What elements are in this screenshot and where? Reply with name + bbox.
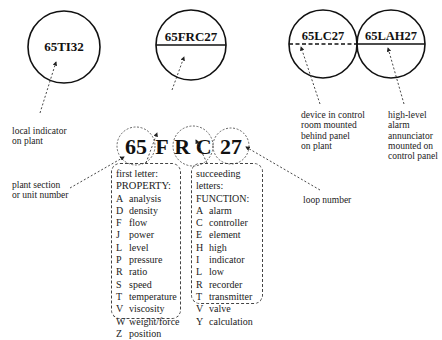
caption-line: local indicator (12, 126, 67, 136)
caption-lah: high-level alarm annunciator mounted on … (388, 110, 438, 161)
legend-code: D (116, 205, 129, 217)
legend-row: Ccontroller (196, 217, 262, 229)
legend-row: Iindicator (196, 254, 262, 266)
legend-row: Ddensity (116, 205, 180, 217)
legend-row: Eelement (196, 229, 262, 241)
caption-line: mounted on (388, 141, 438, 151)
legend-code: H (196, 242, 209, 254)
legend-name: indicator (209, 254, 245, 266)
legend-code: F (116, 217, 129, 229)
legend-code: S (116, 279, 129, 291)
legend-name: analysis (129, 193, 161, 205)
caption-line: or unit number (12, 190, 68, 200)
legend-code: V (196, 303, 209, 315)
legend-row: Llow (196, 266, 262, 278)
symbol-frc: 65FRC27 (156, 10, 226, 90)
legend-row: Ycalculation (196, 316, 262, 328)
legend-code: T (116, 291, 129, 303)
legend-code: I (196, 254, 209, 266)
tag-65TI32: 65TI32 (44, 39, 84, 54)
legend-row: Aalarm (196, 205, 262, 217)
arrow-local-indicator (40, 62, 56, 113)
legend-name: density (129, 205, 158, 217)
legend-row: Fflow (116, 217, 180, 229)
legend-name: speed (129, 279, 152, 291)
succeeding-letters: R C (174, 134, 211, 159)
function-heading-3: FUNCTION: (196, 193, 262, 205)
legend-name: position (129, 328, 161, 340)
caption-line: plant section (12, 180, 68, 190)
caption-line: control panel (388, 151, 438, 161)
legend-code: V (116, 303, 129, 315)
unit-number: 65 (125, 134, 147, 159)
caption-line: alarm (388, 120, 438, 130)
caption-loop-number: loop number (303, 195, 351, 205)
caption-line: room mounted (301, 120, 365, 130)
legend-name: high (209, 242, 227, 254)
legend-name: pressure (129, 254, 162, 266)
property-heading-1: first letter: (116, 168, 180, 180)
symbol-lc: 65LC27 (289, 10, 357, 104)
caption-line: high-level (388, 110, 438, 120)
caption-line: on plant (12, 136, 67, 146)
legend-name: level (129, 242, 148, 254)
legend-name: power (129, 229, 154, 241)
legend-name: ratio (129, 266, 147, 278)
legend-row: Hhigh (196, 242, 262, 254)
symbol-local-indicator: 65TI32 (28, 11, 100, 113)
legend-name: calculation (209, 316, 253, 328)
tag-65LAH27: 65LAH27 (365, 29, 417, 43)
legend-code: J (116, 229, 129, 241)
property-heading-2: PROPERTY: (116, 180, 180, 192)
legend-row: Llevel (116, 242, 180, 254)
legend-row: Ttransmitter (196, 291, 262, 303)
legend-code: L (196, 266, 209, 278)
legend-code: T (196, 291, 209, 303)
loop-number: 27 (220, 134, 242, 159)
arrow-frc (172, 57, 184, 90)
legend-code: Z (116, 328, 129, 340)
caption-line: behind panel (301, 131, 365, 141)
legend-code: R (116, 266, 129, 278)
first-letter: F (155, 134, 168, 159)
legend-code: W (116, 316, 129, 328)
legend-code: P (116, 254, 129, 266)
legend-name: valve (209, 303, 231, 315)
tag-65FRC27: 65FRC27 (165, 29, 218, 44)
caption-lc: device in control room mounted behind pa… (301, 110, 365, 151)
legend-name: flow (129, 217, 147, 229)
caption-local-indicator: local indicator on plant (12, 126, 67, 147)
property-legend-box: first letter: PROPERTY: AanalysisDdensit… (111, 163, 181, 319)
legend-row: Vvalve (196, 303, 262, 315)
legend-row: Zposition (116, 328, 180, 340)
caption-line: annunciator (388, 131, 438, 141)
caption-unit-number: plant section or unit number (12, 180, 68, 201)
legend-row: Vviscosity (116, 303, 180, 315)
legend-code: Y (196, 316, 209, 328)
legend-name: weight/force (129, 316, 180, 328)
legend-code: E (196, 229, 209, 241)
legend-row: Ppressure (116, 254, 180, 266)
function-heading-1: succeeding (196, 168, 262, 180)
legend-code: R (196, 279, 209, 291)
tag-65LC27: 65LC27 (302, 29, 344, 43)
function-legend-box: succeeding letters: FUNCTION: AalarmCcon… (191, 163, 263, 304)
legend-row: Rratio (116, 266, 180, 278)
legend-code: C (196, 217, 209, 229)
legend-name: recorder (209, 279, 242, 291)
legend-row: Wweight/force (116, 316, 180, 328)
legend-name: transmitter (209, 291, 252, 303)
legend-row: Aanalysis (116, 193, 180, 205)
legend-code: A (196, 205, 209, 217)
symbol-lah: 65LAH27 (357, 10, 425, 104)
legend-row: Jpower (116, 229, 180, 241)
legend-name: alarm (209, 205, 232, 217)
function-heading-2: letters: (196, 180, 262, 192)
legend-name: viscosity (129, 303, 165, 315)
legend-name: temperature (129, 291, 177, 303)
legend-name: controller (209, 217, 248, 229)
caption-line: device in control (301, 110, 365, 120)
legend-row: Ttemperature (116, 291, 180, 303)
legend-name: element (209, 229, 241, 241)
legend-code: L (116, 242, 129, 254)
